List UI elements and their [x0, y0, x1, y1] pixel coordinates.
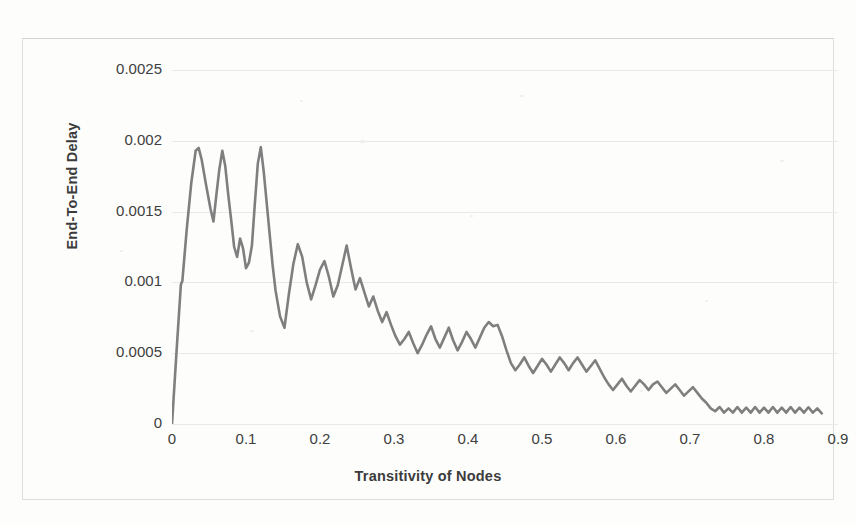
y-tick-label: 0.0005	[62, 343, 162, 361]
x-tick-text: 0.5	[532, 430, 553, 447]
x-tick-label: 0.2	[290, 430, 350, 448]
y-tick-label: 0.001	[62, 272, 162, 290]
y-tick-text: 0.0005	[116, 343, 162, 360]
y-tick-text: 0.001	[124, 272, 162, 289]
scan-speck	[640, 390, 643, 392]
x-tick-label: 0.9	[808, 430, 856, 448]
scan-speck	[470, 215, 473, 217]
chart-figure: End-To-End Delay 00.00050.0010.00150.002…	[0, 0, 856, 524]
x-tick-label: 0.8	[734, 430, 794, 448]
x-tick-label: 0.6	[586, 430, 646, 448]
x-tick-text: 0.9	[828, 430, 849, 447]
scan-speck	[300, 100, 303, 102]
x-tick-label: 0.3	[364, 430, 424, 448]
scan-speck	[520, 95, 524, 97]
x-tick-label: 0.5	[512, 430, 572, 448]
x-tick-text: 0.7	[680, 430, 701, 447]
scan-speck	[360, 140, 365, 143]
x-tick-text: 0	[168, 430, 176, 447]
scan-speck	[250, 330, 254, 332]
x-tick-label: 0.1	[216, 430, 276, 448]
x-tick-text: 0.4	[458, 430, 479, 447]
scan-speck	[705, 300, 708, 302]
y-tick-text: 0.0025	[116, 60, 162, 77]
scan-speck	[120, 250, 123, 252]
x-tick-text: 0.6	[606, 430, 627, 447]
x-tick-text: 0.3	[384, 430, 405, 447]
scan-speck	[780, 160, 784, 162]
y-tick-label: 0.0015	[62, 202, 162, 220]
y-tick-label: 0.0025	[62, 60, 162, 78]
data-series-line	[172, 70, 838, 424]
y-tick-label: 0.002	[62, 131, 162, 149]
x-axis-title: Transitivity of Nodes	[0, 468, 856, 484]
x-tick-text: 0.1	[236, 430, 257, 447]
y-tick-text: 0	[154, 414, 162, 431]
x-tick-text: 0.2	[310, 430, 331, 447]
x-tick-text: 0.8	[754, 430, 775, 447]
x-tick-label: 0	[142, 430, 202, 448]
y-axis-title: End-To-End Delay	[64, 86, 80, 286]
y-tick-text: 0.0015	[116, 202, 162, 219]
gridline-y	[172, 424, 838, 425]
x-tick-label: 0.4	[438, 430, 498, 448]
x-tick-label: 0.7	[660, 430, 720, 448]
plot-area	[172, 70, 838, 424]
y-tick-text: 0.002	[124, 131, 162, 148]
